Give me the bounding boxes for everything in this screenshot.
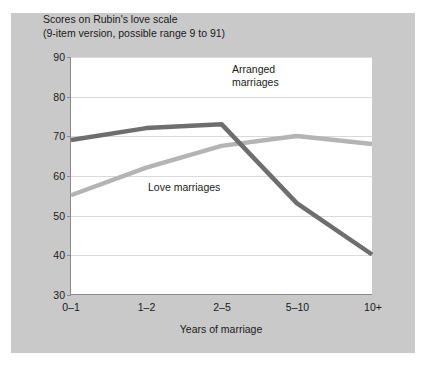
x-tick-label: 5–10 [286, 301, 309, 313]
y-tick-label: 80 [53, 91, 65, 103]
series-line [71, 136, 372, 195]
annotation-love-marriages: Love marriages [148, 181, 220, 194]
y-tick-label: 70 [53, 130, 65, 142]
x-tick-label: 2–5 [213, 301, 231, 313]
y-tick-label: 30 [53, 289, 65, 301]
y-tick-label: 90 [53, 51, 65, 63]
series-lines [71, 57, 372, 294]
x-axis-label: Years of marriage [70, 323, 372, 335]
x-tick-label: 10+ [364, 301, 382, 313]
annotation-arranged-marriages: Arranged marriages [232, 63, 279, 88]
y-tick-label: 50 [53, 210, 65, 222]
x-tick-label: 1–2 [138, 301, 156, 313]
plot-area: 30405060708090 0–11–22–55–1010+ [70, 57, 372, 295]
y-tick-mark [67, 295, 71, 296]
y-tick-label: 60 [53, 170, 65, 182]
x-tick-label: 0–1 [62, 301, 80, 313]
y-tick-label: 40 [53, 249, 65, 261]
chart-title: Scores on Rubin's love scale (9-item ver… [43, 13, 373, 40]
